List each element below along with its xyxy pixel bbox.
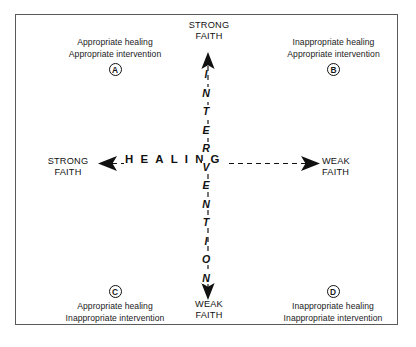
quadrant-a-line2: Appropriate intervention	[40, 49, 190, 61]
vertical-axis-letter: V	[202, 161, 209, 173]
axis-label-right-line2: FAITH	[322, 167, 349, 177]
axis-label-right: WEAK FAITH	[322, 156, 382, 178]
vertical-axis-letter: R	[202, 142, 210, 154]
quadrant-c-line1: Appropriate healing	[40, 301, 190, 313]
axis-label-top: STRONG FAITH	[173, 20, 245, 42]
vertical-axis-word: I N T E R V E N T I O N	[196, 68, 216, 284]
quadrant-a: Appropriate healing Appropriate interven…	[40, 37, 190, 77]
quadrant-c-line2: Inappropriate intervention	[40, 313, 190, 325]
axis-label-right-line1: WEAK	[322, 156, 350, 166]
axis-label-bottom-line2: FAITH	[195, 310, 222, 320]
axis-label-left: STRONG FAITH	[38, 156, 98, 178]
quadrant-a-badge: A	[109, 63, 122, 76]
vertical-axis-letter: N	[202, 198, 210, 210]
quadrant-c-badge: C	[109, 285, 122, 298]
axis-label-bottom: WEAK FAITH	[173, 299, 245, 321]
quadrant-a-line1: Appropriate healing	[40, 37, 190, 49]
vertical-axis-letter: O	[202, 253, 210, 265]
vertical-axis-letter: E	[202, 179, 209, 191]
axis-label-top-line2: FAITH	[195, 31, 222, 41]
vertical-axis-letter: N	[202, 87, 210, 99]
vertical-axis-letter: E	[202, 124, 209, 136]
quadrant-b: Inappropriate healing Appropriate interv…	[256, 37, 411, 77]
axis-label-left-line1: STRONG	[48, 156, 89, 166]
quadrant-d-line1: Inappropriate healing	[254, 301, 412, 313]
quadrant-b-badge: B	[327, 63, 340, 76]
quadrant-c: C Appropriate healing Inappropriate inte…	[40, 285, 190, 324]
vertical-axis-letter: T	[203, 105, 209, 117]
quadrant-b-line2: Appropriate intervention	[256, 49, 411, 61]
vertical-axis-letter: N	[202, 272, 210, 284]
quadrant-b-line1: Inappropriate healing	[256, 37, 411, 49]
quadrant-d-line2: Inappropriate intervention	[254, 313, 412, 325]
vertical-axis-letter: I	[205, 235, 208, 247]
axis-label-left-line2: FAITH	[54, 167, 81, 177]
vertical-axis-letter: I	[205, 68, 208, 80]
axis-label-top-line1: STRONG	[189, 20, 230, 30]
quadrant-d: D Inappropriate healing Inappropriate in…	[254, 285, 412, 324]
vertical-axis-letter: T	[203, 216, 209, 228]
axis-label-bottom-line1: WEAK	[195, 299, 223, 309]
quadrant-d-badge: D	[327, 285, 340, 298]
